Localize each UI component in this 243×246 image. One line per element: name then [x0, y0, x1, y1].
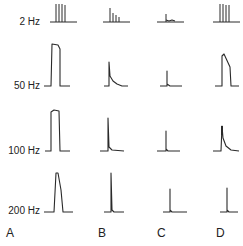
trace-100hz-d: [213, 126, 239, 151]
trace-50hz-d: [215, 54, 239, 86]
trace-2hz-a: [50, 4, 77, 22]
trace-100hz-c: [157, 131, 180, 151]
trace-200hz-c: [163, 189, 187, 212]
trace-200hz-d: [220, 188, 238, 212]
trace-100hz-b: [100, 118, 124, 151]
trace-50hz-b: [104, 62, 128, 86]
trace-200hz-b: [104, 173, 124, 212]
trace-grid: [0, 0, 243, 246]
trace-50hz-a: [44, 44, 70, 86]
trace-2hz-d: [213, 4, 240, 22]
trace-100hz-a: [45, 110, 70, 151]
trace-200hz-a: [44, 173, 73, 212]
trace-2hz-b: [103, 8, 130, 22]
trace-2hz-c: [157, 14, 184, 22]
trace-50hz-c: [160, 71, 182, 86]
